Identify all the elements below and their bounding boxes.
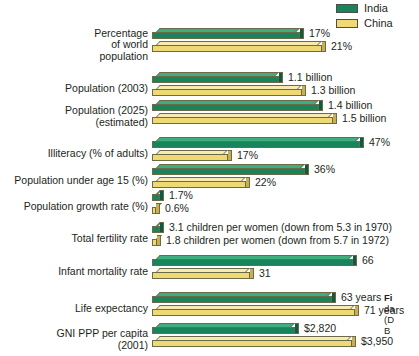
figure-caption: Fi da (D B xyxy=(384,292,419,336)
bar-china: 31 xyxy=(152,268,254,279)
bar-body-china xyxy=(152,154,228,161)
bar-cap xyxy=(250,268,254,279)
row-category-label: Infant mortality rate xyxy=(3,266,148,278)
bar-face xyxy=(152,181,246,188)
bar-value-label-china: 31 xyxy=(259,268,271,279)
bar-cap xyxy=(319,100,323,111)
bar-value-label-india: 63 years xyxy=(341,292,381,303)
bar-cap xyxy=(305,164,309,175)
bar-cap xyxy=(333,113,337,124)
bar-body-china xyxy=(152,309,355,316)
bar-india: 47% xyxy=(152,137,364,148)
bar-china: 17% xyxy=(152,150,232,161)
row-category-label: Percentage of world population xyxy=(3,28,148,63)
bar-body-india xyxy=(152,168,305,175)
bar-top xyxy=(156,113,333,117)
bar-india: $2,820 xyxy=(152,323,299,334)
bar-value-label-china: $3,950 xyxy=(361,336,393,347)
bar-body-india xyxy=(152,141,360,148)
bar-india: 17% xyxy=(152,28,304,39)
bar-face xyxy=(152,239,157,246)
bar-top xyxy=(156,292,332,296)
bar-body-india xyxy=(152,226,160,233)
bar-cap xyxy=(160,190,164,201)
bar-china: 0.6% xyxy=(152,203,160,214)
bar-value-label-india: 66 xyxy=(362,255,374,266)
bar-body-india xyxy=(152,194,160,201)
bar-top xyxy=(156,336,352,340)
bar-india: 1.4 billion xyxy=(152,100,323,111)
caption-line-3: (D xyxy=(384,314,419,325)
bar-value-label-china: 1.8 children per women (down from 5.7 in… xyxy=(166,235,389,246)
caption-line-2: da xyxy=(384,303,419,314)
bar-cap xyxy=(228,150,232,161)
bar-cap xyxy=(160,222,164,233)
bar-top xyxy=(156,72,279,76)
bar-body-china xyxy=(152,45,322,52)
bar-top xyxy=(156,255,353,259)
bar-value-label-india: $2,820 xyxy=(304,323,336,334)
bar-top xyxy=(156,164,305,168)
bar-cap xyxy=(156,203,160,214)
bar-face xyxy=(152,226,160,233)
bar-cap xyxy=(300,28,304,39)
row-category-label: Population (2025) (estimated) xyxy=(3,105,148,128)
bar-face xyxy=(152,168,305,175)
bar-china: $3,950 xyxy=(152,336,356,347)
bar-body-china xyxy=(152,340,352,347)
bar-cap xyxy=(295,323,299,334)
bar-value-label-india: 47% xyxy=(369,137,390,148)
bar-india: 66 xyxy=(152,255,357,266)
bar-value-label-china: 0.6% xyxy=(165,203,189,214)
bar-value-label-china: 22% xyxy=(255,177,276,188)
bar-top xyxy=(156,28,300,32)
bar-face xyxy=(152,296,332,303)
row-category-label: GNI PPP per capita (2001) xyxy=(3,328,148,351)
bar-value-label-india: 1.4 billion xyxy=(328,100,372,111)
bar-value-label-india: 36% xyxy=(314,164,335,175)
bar-india: 1.1 billion xyxy=(152,72,283,83)
bar-body-india xyxy=(152,76,279,83)
bar-cap xyxy=(352,336,356,347)
bar-cap xyxy=(360,137,364,148)
bar-face xyxy=(152,272,250,279)
bar-face xyxy=(152,117,333,124)
bar-top xyxy=(156,150,228,154)
bar-top xyxy=(156,268,250,272)
row-category-label: Population growth rate (%) xyxy=(3,201,148,213)
row-category-label: Life expectancy xyxy=(3,303,148,315)
caption-line-4: B xyxy=(384,325,419,336)
bar-cap xyxy=(355,305,359,316)
bar-india: 3.1 children per women (down from 5.3 in… xyxy=(152,222,164,233)
bar-face xyxy=(152,309,355,316)
bar-body-china xyxy=(152,272,250,279)
bar-value-label-china: 1.3 billion xyxy=(311,85,355,96)
bar-value-label-india: 1.1 billion xyxy=(288,72,332,83)
bar-india: 1.7% xyxy=(152,190,164,201)
row-category-label: Population (2003) xyxy=(3,83,148,95)
bar-face xyxy=(152,207,156,214)
row-category-label: Illiteracy (% of adults) xyxy=(3,148,148,160)
bar-cap xyxy=(246,177,250,188)
bar-body-india xyxy=(152,259,353,266)
bar-chart-plot: Percentage of world population17%21%Popu… xyxy=(0,0,419,356)
bar-value-label-india: 3.1 children per women (down from 5.3 in… xyxy=(169,222,392,233)
bar-face xyxy=(152,141,360,148)
bar-value-label-india: 17% xyxy=(309,28,330,39)
bar-body-china xyxy=(152,181,246,188)
bar-face xyxy=(152,154,228,161)
bar-cap xyxy=(353,255,357,266)
bar-cap xyxy=(279,72,283,83)
bar-china: 71 years xyxy=(152,305,359,316)
bar-face xyxy=(152,259,353,266)
bar-top xyxy=(156,305,355,309)
bar-value-label-china: 1.5 billion xyxy=(342,113,386,124)
bar-face xyxy=(152,340,352,347)
bar-value-label-china: 21% xyxy=(331,41,352,52)
bar-top xyxy=(156,137,360,141)
bar-china: 1.5 billion xyxy=(152,113,337,124)
bar-face xyxy=(152,32,300,39)
bar-cap xyxy=(322,41,326,52)
bar-face xyxy=(152,327,295,334)
bar-top xyxy=(156,100,319,104)
